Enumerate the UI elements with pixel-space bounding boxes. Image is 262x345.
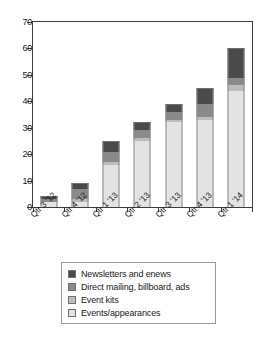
y-axis-tick-label: 50	[6, 70, 32, 79]
legend-swatch-icon	[68, 296, 76, 304]
y-axis-tick-label: 30	[6, 123, 32, 132]
bar-group	[158, 22, 189, 207]
legend-item[interactable]: Newsletters and enews	[68, 267, 210, 280]
bar-group	[221, 22, 252, 207]
chart-legend: Newsletters and enewsDirect mailing, bil…	[61, 262, 216, 324]
y-axis-tick-label: 40	[6, 97, 32, 106]
legend-item-label: Direct mailing, billboard, ads	[81, 282, 190, 292]
legend-item-label: Event kits	[81, 295, 119, 305]
bar-segment	[134, 130, 151, 138]
y-axis: 010203040506070	[0, 0, 32, 345]
y-axis-tick-label: 10	[6, 176, 32, 185]
bar-segment	[165, 104, 182, 112]
bar-group	[33, 22, 64, 207]
x-axis-tick-mark	[252, 208, 253, 212]
legend-item[interactable]: Event kits	[68, 293, 210, 306]
legend-swatch-icon	[68, 283, 76, 291]
bar-segment	[228, 78, 245, 86]
y-axis-tick-label: 0	[6, 203, 32, 212]
bar-group	[64, 22, 95, 207]
legend-item[interactable]: Events/appearances	[68, 306, 210, 319]
bars-layer	[33, 22, 252, 207]
stacked-bar-chart: 010203040506070 Qtr 3 '12Qtr 4 '12Qtr 1 …	[0, 0, 262, 345]
bar-group	[127, 22, 158, 207]
bar-segment	[103, 141, 120, 152]
bar-segment	[165, 112, 182, 120]
bar-stack[interactable]	[197, 88, 214, 207]
legend-swatch-icon	[68, 309, 76, 317]
bar-stack[interactable]	[228, 48, 245, 207]
legend-item-label: Newsletters and enews	[81, 269, 171, 279]
bar-segment	[228, 48, 245, 77]
bar-segment	[197, 104, 214, 117]
bar-group	[96, 22, 127, 207]
legend-item[interactable]: Direct mailing, billboard, ads	[68, 280, 210, 293]
legend-swatch-icon	[68, 270, 76, 278]
y-axis-tick-label: 20	[6, 150, 32, 159]
bar-group	[189, 22, 220, 207]
bar-segment	[134, 122, 151, 130]
bar-segment	[103, 152, 120, 163]
y-axis-tick-label: 70	[6, 18, 32, 27]
y-axis-tick-label: 60	[6, 44, 32, 53]
bar-segment	[197, 88, 214, 104]
legend-item-label: Events/appearances	[81, 308, 160, 318]
